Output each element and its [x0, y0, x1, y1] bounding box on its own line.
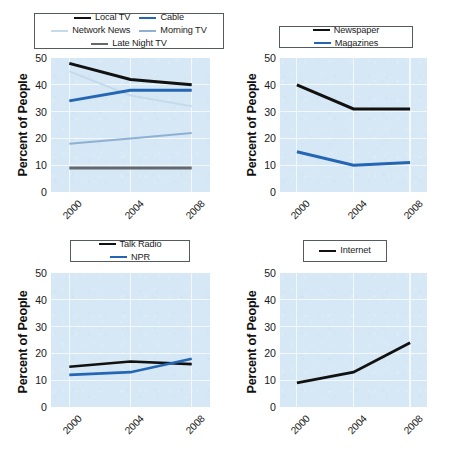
legend-label: Cable	[160, 11, 184, 24]
x-axis-tick-label: 2008	[402, 413, 425, 436]
x-axis-tick-label: 2004	[122, 198, 145, 221]
legend-label: Magazines	[335, 37, 379, 50]
legend-color-swatch	[99, 243, 116, 245]
plot-background-bottom-left	[51, 273, 210, 407]
y-axis-tick-label: 10	[264, 159, 276, 171]
x-axis-tick-label: 2008	[402, 198, 425, 221]
y-axis-tick-label: 20	[264, 347, 276, 359]
legend-top-right: NewspaperMagazines	[279, 26, 413, 48]
legend-entry-talk-radio[interactable]: Talk Radio	[99, 238, 162, 251]
series-lines-top-right	[280, 58, 427, 192]
legend-bottom-left: Talk RadioNPR	[70, 240, 190, 262]
legend-color-swatch	[139, 30, 156, 32]
legend-entry-newspaper[interactable]: Newspaper	[313, 24, 380, 37]
x-axis-tick-label: 2008	[183, 413, 206, 436]
x-axis-tick-label: 2004	[345, 198, 368, 221]
y-axis-tick-label: 0	[270, 186, 276, 198]
x-axis-tick-label: 2000	[288, 413, 311, 436]
legend-color-swatch	[91, 43, 108, 45]
y-axis-tick-label: 20	[35, 347, 47, 359]
y-axis-label-top-right: Percent of People	[245, 60, 259, 190]
legend-bottom-right: Internet	[303, 240, 387, 262]
y-axis-tick-label: 50	[35, 52, 47, 64]
x-axis-tick-label: 2000	[61, 413, 84, 436]
y-axis-tick-label: 0	[41, 186, 47, 198]
legend-entry-morning-tv[interactable]: Morning TV	[139, 24, 206, 37]
y-axis-tick-label: 50	[264, 267, 276, 279]
plot-area-top-left: 01020304050200020042008	[51, 58, 210, 192]
y-axis-tick-label: 10	[264, 374, 276, 386]
data-line-newspaper	[297, 85, 410, 109]
multi-panel-line-chart-figure: Local TVCableNetwork NewsMorning TVLate …	[0, 0, 450, 454]
plot-background-top-right	[280, 58, 427, 192]
legend-label: Talk Radio	[120, 238, 162, 251]
legend-color-swatch	[313, 29, 330, 31]
y-axis-tick-label: 20	[35, 132, 47, 144]
series-lines-bottom-left	[51, 273, 210, 407]
y-axis-tick-label: 40	[35, 79, 47, 91]
x-axis-tick-label: 2000	[61, 198, 84, 221]
legend-entry-local-tv[interactable]: Local TV	[74, 11, 130, 24]
y-axis-tick-label: 10	[35, 374, 47, 386]
data-line-magazines	[297, 152, 410, 165]
y-axis-tick-label: 30	[264, 321, 276, 333]
legend-entry-cable[interactable]: Cable	[139, 11, 184, 24]
plot-area-bottom-right: 01020304050200020042008	[280, 273, 427, 407]
data-line-internet	[297, 343, 410, 383]
series-lines-bottom-right	[280, 273, 427, 407]
y-axis-tick-label: 30	[35, 321, 47, 333]
legend-color-swatch	[110, 256, 127, 258]
y-axis-tick-label: 50	[264, 52, 276, 64]
legend-label: Morning TV	[160, 24, 206, 37]
data-line-morning-tv	[69, 133, 191, 144]
legend-entry-npr[interactable]: NPR	[110, 251, 150, 264]
legend-label: Newspaper	[334, 24, 380, 37]
legend-entry-magazines[interactable]: Magazines	[314, 37, 379, 50]
panel-bottom-right: Internet Percent of People 0102030405020…	[225, 227, 450, 454]
y-axis-tick-label: 40	[264, 79, 276, 91]
panel-top-left: Local TVCableNetwork NewsMorning TVLate …	[0, 0, 225, 227]
y-axis-tick-label: 0	[41, 401, 47, 413]
y-axis-tick-label: 40	[35, 294, 47, 306]
x-axis-tick-label: 2000	[288, 198, 311, 221]
legend-color-swatch	[51, 30, 68, 32]
legend-label: Network News	[72, 24, 130, 37]
y-axis-label-top-left: Percent of People	[16, 60, 30, 190]
x-axis-tick-label: 2008	[183, 198, 206, 221]
legend-color-swatch	[319, 250, 336, 252]
panel-top-right: NewspaperMagazines Percent of People 010…	[225, 0, 450, 227]
y-axis-label-bottom-right: Percent of People	[245, 277, 259, 407]
plot-area-top-right: 01020304050200020042008	[280, 58, 427, 192]
panel-bottom-left: Talk RadioNPR Percent of People 01020304…	[0, 227, 225, 454]
y-axis-tick-label: 40	[264, 294, 276, 306]
plot-background-bottom-right	[280, 273, 427, 407]
legend-label: Late Night TV	[112, 37, 167, 50]
y-axis-tick-label: 20	[264, 132, 276, 144]
x-axis-tick-label: 2004	[122, 413, 145, 436]
legend-label: Local TV	[95, 11, 130, 24]
y-axis-tick-label: 30	[264, 106, 276, 118]
series-lines-top-left	[51, 58, 210, 192]
legend-label: NPR	[131, 251, 150, 264]
y-axis-label-bottom-left: Percent of People	[16, 277, 30, 407]
plot-background-top-left	[51, 58, 210, 192]
x-axis-tick-label: 2004	[345, 413, 368, 436]
data-line-local-tv	[69, 63, 191, 84]
legend-color-swatch	[314, 42, 331, 44]
legend-label: Internet	[340, 244, 370, 257]
legend-entry-network-news[interactable]: Network News	[51, 24, 130, 37]
legend-color-swatch	[74, 17, 91, 19]
y-axis-tick-label: 30	[35, 106, 47, 118]
y-axis-tick-label: 0	[270, 401, 276, 413]
plot-area-bottom-left: 01020304050200020042008	[51, 273, 210, 407]
legend-color-swatch	[139, 17, 156, 19]
y-axis-tick-label: 50	[35, 267, 47, 279]
legend-entry-internet[interactable]: Internet	[319, 244, 370, 257]
legend-top-left: Local TVCableNetwork NewsMorning TVLate …	[34, 13, 224, 49]
y-axis-tick-label: 10	[35, 159, 47, 171]
legend-entry-late-night-tv[interactable]: Late Night TV	[91, 37, 167, 50]
